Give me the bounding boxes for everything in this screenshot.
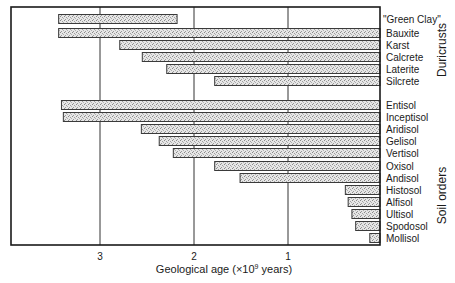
bar xyxy=(345,186,380,195)
category-label: Inceptisol xyxy=(386,112,428,123)
bar xyxy=(240,174,380,183)
bar xyxy=(59,29,380,38)
category-label: Histosol xyxy=(386,185,422,196)
x-axis-label: Geological age (×109 years) xyxy=(156,263,292,275)
bar xyxy=(370,234,380,243)
bar xyxy=(59,15,177,24)
bar xyxy=(215,162,380,171)
category-label: Oxisol xyxy=(386,161,414,172)
category-labels: "Green Clay"BauxiteKarstCalcreteLaterite… xyxy=(383,14,441,244)
bar xyxy=(348,198,380,207)
group-labels: DuricrustsSoil orders xyxy=(435,23,449,224)
bar xyxy=(352,210,380,219)
category-label: Mollisol xyxy=(386,233,419,244)
bar xyxy=(63,113,380,122)
group-label: Soil orders xyxy=(435,167,449,224)
category-label: Laterite xyxy=(386,64,420,75)
category-label: Ultisol xyxy=(386,209,413,220)
category-label: Vertisol xyxy=(386,148,419,159)
category-label: Karst xyxy=(386,40,410,51)
bar xyxy=(356,222,380,231)
category-label: Gelisol xyxy=(386,136,417,147)
category-label: Calcrete xyxy=(386,52,424,63)
category-label: Bauxite xyxy=(386,28,420,39)
bar xyxy=(141,125,380,134)
bar xyxy=(215,77,380,86)
category-label: Entisol xyxy=(386,100,416,111)
x-tick-label: 2 xyxy=(191,251,197,262)
x-tick-labels: 321 xyxy=(97,251,291,262)
geological-age-chart: 321 "Green Clay"BauxiteKarstCalcreteLate… xyxy=(0,0,455,283)
category-label: Andisol xyxy=(386,173,419,184)
bars xyxy=(59,15,380,243)
bar xyxy=(120,41,380,50)
category-label: "Green Clay" xyxy=(383,14,441,25)
category-label: Alfisol xyxy=(386,197,413,208)
group-label: Duricrusts xyxy=(435,23,449,77)
x-tick-label: 3 xyxy=(97,251,103,262)
bar xyxy=(159,137,380,146)
category-label: Aridisol xyxy=(386,124,419,135)
category-label: Silcrete xyxy=(386,76,420,87)
bar xyxy=(61,101,380,110)
bar xyxy=(142,53,380,62)
bar xyxy=(167,65,380,74)
bar xyxy=(173,149,380,158)
x-tick-label: 1 xyxy=(285,251,291,262)
category-label: Spodosol xyxy=(386,221,428,232)
